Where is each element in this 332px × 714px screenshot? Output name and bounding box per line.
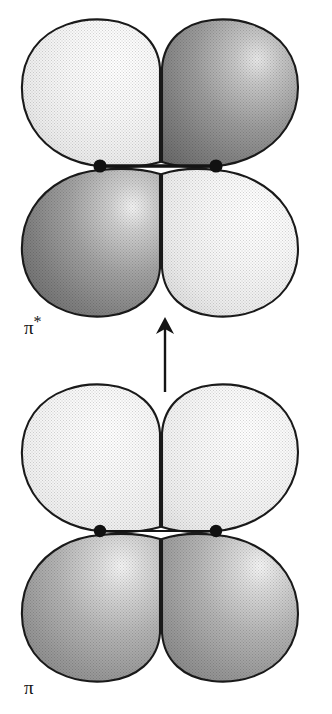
nucleus-pi-left xyxy=(94,525,106,537)
nucleus-pi-right xyxy=(210,525,222,537)
nucleus-pi-star-right xyxy=(209,159,222,172)
orbital-diagram xyxy=(0,0,332,714)
orbital-label-antibonding-star: * xyxy=(34,313,42,330)
orbital-label-antibonding: π* xyxy=(24,314,42,337)
orbital-diagram-canvas xyxy=(0,0,332,714)
orbital-label-bonding: π xyxy=(24,678,34,697)
nucleus-pi-star-left xyxy=(93,159,106,172)
orbital-label-antibonding-symbol: π xyxy=(24,317,34,338)
orbital-label-bonding-symbol: π xyxy=(24,677,34,698)
